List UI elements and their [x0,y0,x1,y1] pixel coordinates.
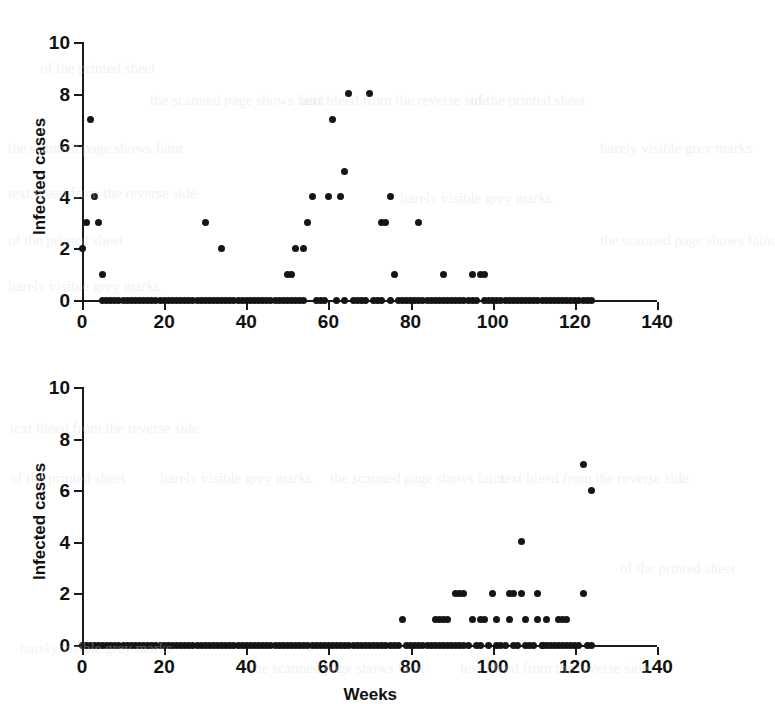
data-point [304,219,311,226]
data-point [387,297,394,304]
y-tick [74,42,82,44]
data-point [510,590,517,597]
data-point [218,245,225,252]
x-tick-label: 60 [318,311,339,333]
page-bleed-mark: barely visible grey marks [600,140,752,157]
x-tick-label: 20 [154,656,175,678]
x-tick [328,302,330,310]
x-tick [657,647,659,655]
data-point [341,297,348,304]
data-point [399,616,406,623]
data-point [395,642,402,649]
y-axis-line [82,42,84,302]
page-bleed-mark: the scanned page shows faint [8,140,183,157]
y-tick-label: 8 [34,84,70,106]
data-point [465,642,472,649]
data-point [530,642,537,649]
y-axis-title: Infected cases [30,118,50,235]
data-point [473,297,480,304]
page-bleed-mark: the scanned page shows faint [330,470,505,487]
data-point [588,487,595,494]
data-point [502,642,509,649]
data-point [563,616,570,623]
data-point [300,245,307,252]
page-bleed-mark: barely visible grey marks [400,190,552,207]
data-point [87,116,94,123]
x-tick-label: 20 [154,311,175,333]
x-tick-label: 120 [559,311,591,333]
x-tick-label: 80 [400,311,421,333]
data-point [321,297,328,304]
page-bleed-mark: the scanned page shows faint [250,660,425,677]
data-point [99,271,106,278]
data-point [440,271,447,278]
page-bleed-mark: text bleed from the reverse side [460,660,649,677]
y-tick-label: 10 [34,377,70,399]
data-point [387,193,394,200]
data-point [341,168,348,175]
panel-bottom: 0204060801001201400246810Infected casesW… [0,345,701,690]
y-tick [74,542,82,544]
data-point [518,590,525,597]
data-point [300,297,307,304]
data-point [534,590,541,597]
page-bleed-mark: of the printed sheet [10,470,125,487]
data-point [288,271,295,278]
data-point [362,297,369,304]
data-point [378,297,385,304]
x-tick [657,302,659,310]
data-point [477,642,484,649]
page-bleed-mark: barely visible grey marks [8,278,160,295]
data-point [337,193,344,200]
data-point [469,616,476,623]
data-point [588,642,595,649]
data-point [485,642,492,649]
data-point [469,271,476,278]
data-point [329,116,336,123]
data-point [580,590,587,597]
data-point [580,461,587,468]
data-point [481,271,488,278]
data-point [489,590,496,597]
y-tick [74,94,82,96]
data-point [391,271,398,278]
y-tick [74,593,82,595]
data-point [333,297,340,304]
page-bleed-mark: text bleed from the reverse side [8,185,197,202]
page-bleed-mark: text bleed from the reverse side [10,420,199,437]
data-point [292,245,299,252]
x-tick-label: 100 [477,311,509,333]
x-tick [82,302,84,310]
data-point [95,219,102,226]
x-tick-label: 0 [77,656,88,678]
page-bleed-mark: of the printed sheet [8,232,123,249]
data-point [415,219,422,226]
y-tick [74,439,82,441]
x-tick-label: 40 [236,311,257,333]
x-tick-label: 0 [77,311,88,333]
data-point [325,193,332,200]
data-point [588,297,595,304]
page-bleed-mark: the scanned page shows faint [150,92,325,109]
y-tick-label: 10 [34,32,70,54]
y-tick [74,387,82,389]
x-tick-label: 140 [641,311,673,333]
data-point [575,642,582,649]
page-bleed-mark: barely visible grey marks [20,640,172,657]
data-point [534,616,541,623]
data-point [522,616,529,623]
page-bleed-mark: barely visible grey marks [160,470,312,487]
plot-area-bottom: 0204060801001201400246810Infected casesW… [0,345,701,690]
page-bleed-mark: of the printed sheet [40,60,155,77]
y-tick-label: 2 [34,583,70,605]
y-tick [74,490,82,492]
data-point [514,642,521,649]
data-point [460,590,467,597]
page-bleed-mark: the scanned page shows faint [600,232,775,249]
data-point [382,219,389,226]
data-point [518,538,525,545]
data-point [83,219,90,226]
data-point [506,616,513,623]
y-tick [74,300,82,302]
